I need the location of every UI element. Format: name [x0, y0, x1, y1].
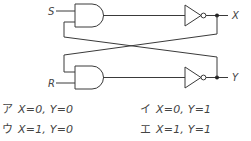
option-c: ウX=1, Y=0	[2, 120, 73, 136]
not-gate-upper	[185, 5, 228, 34]
option-mark: エ	[140, 120, 156, 136]
option-text: X=0, Y=0	[18, 103, 73, 116]
option-text: X=0, Y=1	[156, 103, 211, 116]
output-label-y: Y	[232, 72, 239, 83]
and-gate-upper	[56, 4, 185, 37]
sr-latch-circuit: S R X Y	[0, 0, 251, 100]
option-text: X=1, Y=0	[18, 123, 73, 136]
option-b: イX=0, Y=1	[140, 100, 211, 116]
output-label-x: X	[231, 10, 240, 21]
option-mark: ウ	[2, 120, 18, 136]
option-mark: ア	[2, 100, 18, 116]
option-mark: イ	[140, 100, 156, 116]
option-text: X=1, Y=1	[156, 123, 211, 136]
not-gate-lower	[185, 57, 228, 88]
input-label-s: S	[48, 6, 55, 17]
and-gate-lower	[56, 55, 185, 89]
cross-feedback-wires	[64, 34, 217, 57]
option-a: アX=0, Y=0	[2, 100, 73, 116]
option-d: エX=1, Y=1	[140, 120, 211, 136]
input-label-r: R	[48, 78, 55, 89]
